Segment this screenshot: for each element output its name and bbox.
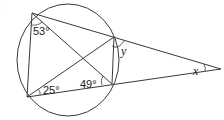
circle-geometry-diagram: ) 53° 25° 49° y x bbox=[0, 0, 224, 120]
angle-label-y: y bbox=[120, 44, 127, 58]
secant-AE bbox=[32, 13, 221, 69]
chord-BC bbox=[112, 37, 114, 84]
angle-label-53: 53° bbox=[33, 25, 50, 37]
angle-label-25: 25° bbox=[43, 84, 60, 96]
circle bbox=[17, 4, 119, 116]
angle-label-x: x bbox=[192, 64, 199, 78]
angle-arc-25 bbox=[38, 89, 40, 95]
angle-arc-x bbox=[204, 64, 205, 71]
angle-label-49: 49° bbox=[80, 78, 97, 90]
angle-arc-49 bbox=[101, 76, 103, 85]
chord-AC bbox=[32, 13, 112, 84]
chord-DB bbox=[27, 37, 114, 97]
